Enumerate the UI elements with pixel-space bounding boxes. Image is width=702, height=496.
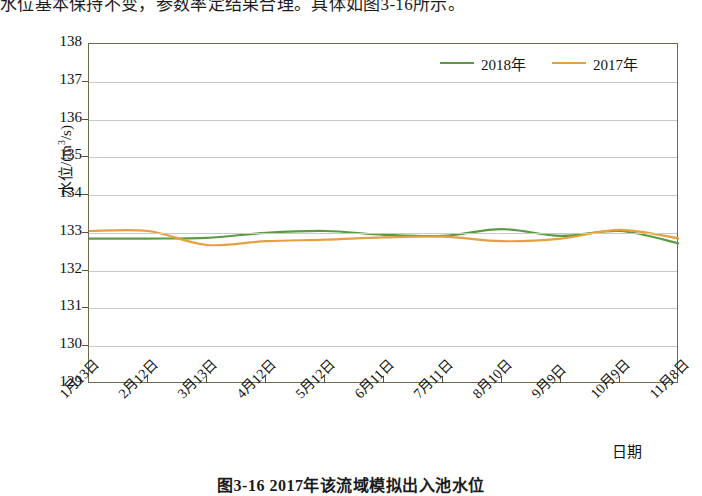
plot-area: [88, 43, 678, 383]
gridline: [89, 195, 677, 196]
y-tick-label: 134: [36, 184, 82, 201]
y-tick-label: 133: [36, 222, 82, 239]
y-tick-label: 137: [36, 71, 82, 88]
gridline: [89, 157, 677, 158]
gridline: [89, 120, 677, 121]
legend-swatch-2017: [552, 62, 586, 64]
chart-legend: 2018年 2017年: [440, 50, 672, 76]
y-tick-label: 135: [36, 146, 82, 163]
gridline: [89, 82, 677, 83]
legend-item-2018: 2018年: [440, 53, 526, 74]
y-tick-label: 131: [36, 297, 82, 314]
series-line-2018年: [89, 229, 679, 243]
gridline: [89, 346, 677, 347]
legend-item-2017: 2017年: [552, 53, 638, 74]
legend-swatch-2018: [440, 62, 474, 64]
y-tick-label: 130: [36, 335, 82, 352]
figure-caption: 图3-16 2017年该流域模拟出入池水位: [0, 472, 702, 496]
gridline: [89, 233, 677, 234]
x-axis-title: 日期: [612, 440, 642, 461]
legend-label-2017: 2017年: [593, 53, 638, 74]
series-lines: [89, 44, 679, 384]
y-tick-label: 132: [36, 260, 82, 277]
gridline: [89, 271, 677, 272]
legend-label-2018: 2018年: [481, 53, 526, 74]
y-tick-label: 138: [36, 33, 82, 50]
gridline: [89, 308, 677, 309]
y-tick-label: 136: [36, 109, 82, 126]
